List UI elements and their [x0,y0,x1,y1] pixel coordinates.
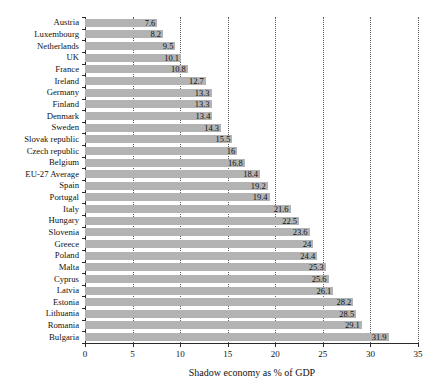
bar-malta [85,263,326,271]
x-tick-10 [180,343,181,347]
bar-value-label: 7.6 [133,19,155,28]
bar-estonia [85,298,353,306]
bar-romania [85,321,362,329]
y-tick [82,273,85,274]
category-label-text: Lithuania [46,309,82,318]
category-label-greece: Greece [0,238,82,250]
bar-value-label: 24.4 [293,251,315,260]
category-label-text: Luxembourg [34,30,82,39]
category-label-france: France [0,64,82,76]
category-label-bulgaria: Bulgaria [0,331,82,343]
table-row: 16 [85,145,418,157]
category-label-estonia: Estonia [0,296,82,308]
bar-value-label: 14.3 [197,123,219,132]
category-label-latvia: Latvia [0,285,82,297]
y-tick [82,250,85,251]
y-tick [82,75,85,76]
y-tick [82,308,85,309]
category-label-romania: Romania [0,320,82,332]
category-label-malta: Malta [0,261,82,273]
bar-poland [85,252,317,260]
bar-value-label: 21.6 [267,205,289,214]
table-row: 24 [85,238,418,250]
category-label-netherlands: Netherlands [0,40,82,52]
category-label-text: Denmark [47,112,82,121]
bar-value-label: 10.8 [164,65,186,74]
category-label-text: Slovak republic [24,135,82,144]
table-row: 13.4 [85,110,418,122]
table-row: 25.6 [85,273,418,285]
table-row: 13.3 [85,98,418,110]
category-label-text: Malta [59,263,82,272]
bar-slovenia [85,228,310,236]
table-row: 28.2 [85,296,418,308]
bar-spain [85,182,268,190]
category-label-czech-republic: Czech republic [0,145,82,157]
table-row: 10.1 [85,52,418,64]
category-label-lithuania: Lithuania [0,308,82,320]
category-label-text: Austria [53,18,82,27]
category-label-slovenia: Slovenia [0,227,82,239]
x-tick-label: 30 [366,350,375,359]
bar-value-label: 9.5 [151,42,173,51]
category-label-text: Spain [59,181,82,190]
bar-value-label: 29.1 [338,321,360,330]
category-label-text: Greece [54,240,82,249]
y-tick [82,122,85,123]
y-tick [82,180,85,181]
x-tick-35 [418,343,419,347]
table-row: 21.6 [85,203,418,215]
x-tick-label: 25 [318,350,327,359]
category-label-portugal: Portugal [0,192,82,204]
y-tick [82,285,85,286]
x-tick-label: 5 [130,350,135,359]
table-row: 13.3 [85,87,418,99]
y-tick [82,145,85,146]
category-label-text: Netherlands [37,42,82,51]
shadow-economy-bar-chart: AustriaLuxembourgNetherlandsUKFranceIrel… [0,0,436,389]
bar-rows: 7.68.29.510.110.812.713.313.313.414.315.… [85,17,418,343]
bar-value-label: 13.3 [188,88,210,97]
table-row: 16.8 [85,157,418,169]
table-row: 19.2 [85,180,418,192]
category-label-luxembourg: Luxembourg [0,29,82,41]
category-label-text: Estonia [53,298,82,307]
table-row: 24.4 [85,250,418,262]
plot-area: 7.68.29.510.110.812.713.313.313.414.315.… [85,17,418,343]
bar-italy [85,205,291,213]
x-tick-20 [275,343,276,347]
bar-value-label: 18.4 [236,170,258,179]
bar-value-label: 31.9 [365,333,387,342]
bar-value-label: 26.1 [309,286,331,295]
y-tick [82,157,85,158]
category-label-belgium: Belgium [0,157,82,169]
x-tick-label: 35 [414,350,423,359]
category-label-text: France [55,65,82,74]
gridline-35 [418,17,419,343]
x-tick-5 [133,343,134,347]
y-tick [82,192,85,193]
table-row: 25.3 [85,261,418,273]
category-label-austria: Austria [0,17,82,29]
table-row: 8.2 [85,29,418,41]
table-row: 15.5 [85,133,418,145]
category-label-text: Portugal [50,193,82,202]
category-label-text: UK [66,53,82,62]
x-tick-0 [85,343,86,347]
table-row: 7.6 [85,17,418,29]
y-tick [82,29,85,30]
y-tick [82,110,85,111]
bar-cyprus [85,275,329,283]
category-label-text: Finland [52,100,82,109]
category-label-eu-27-average: EU-27 Average [0,168,82,180]
category-label-slovak-republic: Slovak republic [0,133,82,145]
bar-value-label: 13.4 [188,112,210,121]
category-label-germany: Germany [0,87,82,99]
y-tick [82,133,85,134]
category-label-text: Bulgaria [49,333,82,342]
table-row: 29.1 [85,320,418,332]
category-label-ireland: Ireland [0,75,82,87]
bar-value-label: 10.1 [157,53,179,62]
x-axis-title: Shadow economy as % of GDP [85,368,419,378]
bar-portugal [85,193,270,201]
